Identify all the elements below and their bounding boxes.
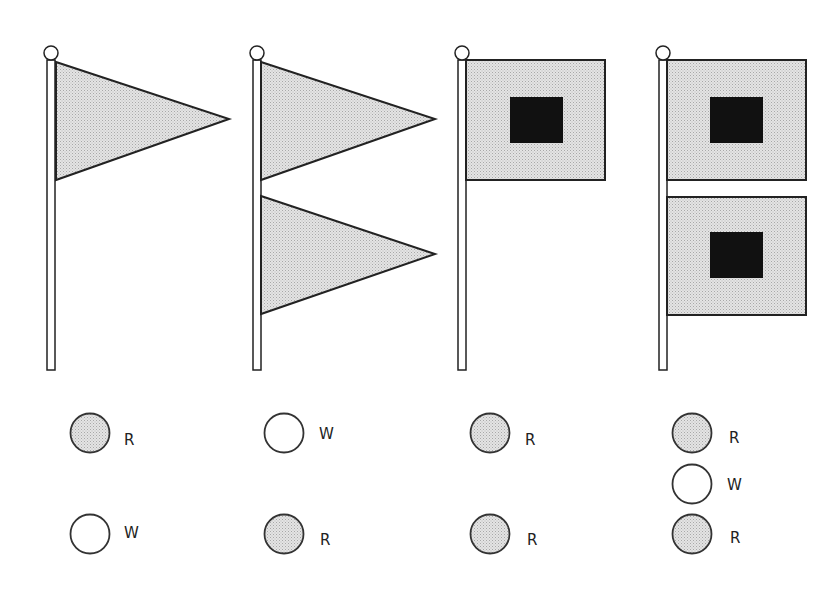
pennant-flag-2-upper: [261, 62, 435, 180]
signal-diagram: [0, 0, 833, 596]
light-label-3b: R: [527, 531, 537, 549]
flag-center-square-4-upper: [710, 97, 763, 143]
light-label-1a: R: [124, 431, 134, 449]
light-label-4a: R: [729, 429, 739, 447]
light-white-1b: [71, 515, 110, 554]
light-label-4b: W: [727, 476, 742, 494]
light-red-4a: [673, 414, 712, 453]
light-red-3a: [471, 414, 510, 453]
pennant-flag-2-lower: [261, 196, 435, 314]
pennant-flag-1: [56, 62, 229, 180]
light-label-1b: W: [124, 524, 139, 542]
flag-center-square-3: [510, 97, 563, 143]
light-label-2b: R: [320, 531, 330, 549]
flag-center-square-4-lower: [710, 232, 763, 278]
light-white-2a: [265, 414, 304, 453]
light-label-2a: W: [319, 425, 334, 443]
light-red-2b: [265, 515, 304, 554]
light-white-4b: [673, 465, 712, 504]
light-label-3a: R: [525, 431, 535, 449]
light-red-1a: [71, 414, 110, 453]
light-label-4c: R: [730, 529, 740, 547]
light-red-4c: [673, 515, 712, 554]
light-red-3b: [471, 515, 510, 554]
